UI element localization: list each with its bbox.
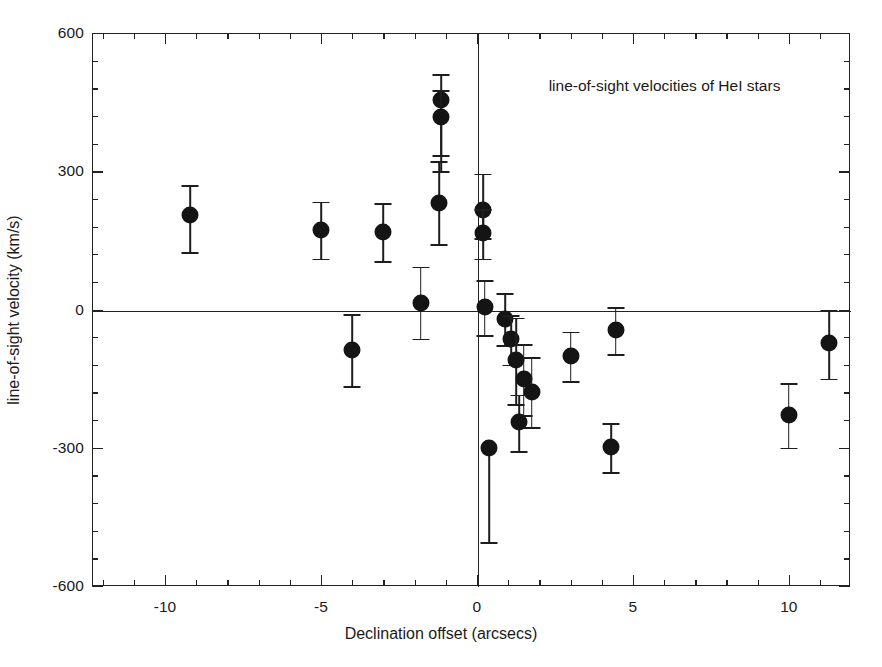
data-point-marker — [433, 108, 450, 125]
error-bar-cap-upper — [515, 344, 532, 346]
error-bar-cap-upper — [344, 314, 361, 316]
y-tick-minor-right — [844, 337, 850, 338]
x-tick-minor-top — [726, 33, 727, 39]
error-bar-cap-upper — [375, 203, 392, 205]
error-bar-cap-upper — [412, 267, 429, 269]
zero-velocity-line — [93, 311, 851, 312]
x-tick-major — [789, 575, 790, 586]
x-tick-minor-top — [820, 33, 821, 39]
x-tick-major — [633, 575, 634, 586]
data-point-marker — [375, 224, 392, 241]
error-bar-cap-upper — [181, 185, 198, 187]
x-tick-minor — [227, 580, 228, 586]
y-tick-minor — [92, 558, 98, 559]
data-point-marker — [780, 406, 797, 423]
y-tick-minor-right — [844, 420, 850, 421]
x-tick-major-top — [789, 33, 790, 44]
y-tick-minor — [92, 531, 98, 532]
x-tick-minor-top — [758, 33, 759, 39]
error-bar-line — [489, 448, 491, 542]
data-point-marker — [603, 438, 620, 455]
y-tick-label: 600 — [20, 24, 84, 42]
x-tick-label: 5 — [629, 598, 638, 616]
error-bar-cap-lower — [181, 252, 198, 254]
error-bar-cap-lower — [433, 171, 450, 173]
y-tick-minor-right — [844, 475, 850, 476]
x-tick-minor — [571, 580, 572, 586]
error-bar-cap-lower — [344, 386, 361, 388]
x-tick-label: 10 — [780, 598, 797, 616]
x-tick-label: -5 — [314, 598, 328, 616]
y-tick-minor-right — [844, 392, 850, 393]
y-tick-minor — [92, 475, 98, 476]
error-bar-cap-lower — [481, 542, 498, 544]
y-tick-major — [92, 171, 103, 172]
y-tick-major-right — [839, 33, 850, 34]
y-tick-minor — [92, 199, 98, 200]
y-tick-minor — [92, 365, 98, 366]
error-bar-cap-lower — [511, 451, 528, 453]
x-tick-minor-top — [508, 33, 509, 39]
x-tick-major-top — [165, 33, 166, 44]
y-tick-minor — [92, 337, 98, 338]
data-point-marker — [511, 414, 528, 431]
error-bar-cap-upper — [433, 74, 450, 76]
error-bar-cap-lower — [821, 379, 838, 381]
x-axis-title: Declination offset (arcsecs) — [345, 625, 538, 643]
x-tick-minor-top — [446, 33, 447, 39]
y-tick-minor-right — [844, 531, 850, 532]
error-bar-cap-upper — [523, 357, 540, 359]
data-point-marker — [607, 322, 624, 339]
error-bar-cap-lower — [412, 339, 429, 341]
x-tick-minor-top — [571, 33, 572, 39]
error-bar-cap-lower — [312, 259, 329, 261]
error-bar-cap-lower — [375, 261, 392, 263]
y-tick-minor-right — [844, 227, 850, 228]
y-tick-minor — [92, 254, 98, 255]
y-tick-minor-right — [844, 61, 850, 62]
x-tick-minor — [383, 580, 384, 586]
plot-frame — [92, 33, 850, 586]
x-tick-minor-top — [664, 33, 665, 39]
y-tick-label: -600 — [20, 577, 84, 595]
x-tick-minor — [695, 580, 696, 586]
x-tick-minor — [539, 580, 540, 586]
data-point-marker — [475, 225, 492, 242]
error-bar-cap-upper — [511, 395, 528, 397]
x-tick-minor — [290, 580, 291, 586]
y-tick-label: -300 — [20, 439, 84, 457]
y-tick-minor — [92, 420, 98, 421]
x-tick-minor — [508, 580, 509, 586]
y-tick-minor — [92, 61, 98, 62]
error-bar-cap-lower — [476, 335, 493, 337]
y-axis-title: line-of-sight velocity (km/s) — [5, 215, 23, 404]
y-tick-minor — [92, 144, 98, 145]
error-bar-cap-lower — [507, 404, 524, 406]
x-tick-major — [477, 575, 478, 586]
data-point-marker — [312, 222, 329, 239]
x-tick-minor-top — [415, 33, 416, 39]
x-tick-minor — [415, 580, 416, 586]
error-bar-cap-upper — [433, 90, 450, 92]
y-tick-minor-right — [844, 365, 850, 366]
x-tick-minor-top — [539, 33, 540, 39]
data-point-marker — [821, 334, 838, 351]
y-tick-minor — [92, 88, 98, 89]
error-bar-cap-lower — [562, 381, 579, 383]
y-tick-minor-right — [844, 254, 850, 255]
data-point-marker — [523, 383, 540, 400]
x-tick-minor — [196, 580, 197, 586]
x-tick-major-top — [477, 33, 478, 44]
chart-annotation: line-of-sight velocities of HeI stars — [549, 77, 781, 95]
chart-root: -10-505106003000-300-600 Declination off… — [0, 0, 882, 667]
x-tick-minor — [446, 580, 447, 586]
error-bar-cap-upper — [312, 202, 329, 204]
error-bar-cap-lower — [607, 354, 624, 356]
x-tick-minor-top — [227, 33, 228, 39]
error-bar-cap-upper — [475, 174, 492, 176]
data-point-marker — [344, 342, 361, 359]
x-tick-major — [165, 575, 166, 586]
y-tick-minor — [92, 503, 98, 504]
y-tick-major-right — [839, 310, 850, 311]
x-tick-minor — [352, 580, 353, 586]
